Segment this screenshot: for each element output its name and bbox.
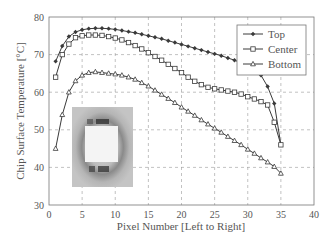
triangle-marker-icon (166, 96, 171, 100)
diamond-marker-icon (272, 101, 276, 105)
legend-label: Top (268, 28, 285, 40)
triangle-marker-icon (206, 122, 211, 126)
square-marker-icon (80, 34, 84, 38)
y-tick-label: 40 (34, 162, 44, 173)
triangle-marker-icon (179, 105, 184, 109)
square-marker-icon (279, 143, 283, 147)
diamond-marker-icon (199, 48, 203, 52)
square-marker-icon (219, 88, 223, 92)
triangle-marker-icon (259, 155, 264, 159)
square-marker-icon (133, 43, 137, 47)
square-marker-icon (93, 33, 97, 37)
y-axis-label: Chip Surface Temperature [°C] (14, 42, 26, 180)
diamond-marker-icon (173, 40, 177, 44)
square-marker-icon (159, 58, 163, 62)
square-marker-icon (199, 82, 203, 86)
y-tick-label: 80 (34, 12, 44, 23)
square-marker-icon (252, 97, 256, 101)
diamond-marker-icon (120, 28, 124, 32)
diamond-marker-icon (113, 27, 117, 31)
triangle-marker-icon (232, 138, 237, 142)
square-marker-icon (226, 89, 230, 93)
y-tick-label: 30 (34, 200, 44, 211)
square-marker-icon (87, 33, 91, 37)
triangle-marker-icon (199, 117, 204, 121)
inset-thermal-image (72, 107, 133, 187)
legend-label: Center (268, 43, 298, 55)
square-marker-icon (120, 38, 124, 42)
x-tick-label: 25 (210, 209, 220, 220)
square-marker-icon (173, 66, 177, 70)
x-tick-label: 15 (143, 209, 153, 220)
square-marker-icon (113, 36, 117, 40)
square-marker-icon (259, 99, 263, 103)
square-marker-icon (206, 85, 210, 89)
y-tick-label: 70 (34, 49, 44, 60)
square-marker-icon (146, 51, 150, 55)
diamond-marker-icon (106, 26, 110, 30)
square-marker-icon (186, 75, 190, 79)
triangle-marker-icon (192, 113, 197, 117)
diamond-marker-icon (166, 38, 170, 42)
diamond-marker-icon (126, 29, 130, 33)
diamond-marker-icon (93, 26, 97, 30)
temperature-chart: 0510152025303540304050607080 Pixel Numbe… (0, 0, 335, 245)
x-tick-label: 10 (110, 209, 120, 220)
square-marker-icon (251, 47, 255, 51)
square-marker-icon (126, 40, 130, 44)
x-tick-label: 40 (309, 209, 319, 220)
triangle-marker-icon (219, 130, 224, 134)
diamond-marker-icon (140, 32, 144, 36)
square-marker-icon (100, 33, 104, 37)
triangle-marker-icon (252, 151, 257, 155)
triangle-marker-icon (60, 112, 65, 116)
diamond-marker-icon (53, 59, 57, 63)
diamond-marker-icon (179, 42, 183, 46)
y-tick-label: 50 (34, 124, 44, 135)
square-marker-icon (272, 120, 276, 124)
legend-label: Bottom (268, 58, 301, 70)
triangle-marker-icon (272, 164, 277, 168)
triangle-marker-icon (172, 100, 177, 104)
square-marker-icon (265, 103, 269, 107)
diamond-marker-icon (206, 50, 210, 54)
diamond-marker-icon (133, 31, 137, 35)
square-marker-icon (140, 47, 144, 51)
square-marker-icon (166, 62, 170, 66)
diamond-marker-icon (212, 52, 216, 56)
diamond-marker-icon (219, 54, 223, 58)
square-marker-icon (153, 54, 157, 58)
x-tick-label: 30 (243, 209, 253, 220)
triangle-marker-icon (159, 92, 164, 96)
x-tick-label: 35 (276, 209, 286, 220)
triangle-marker-icon (245, 147, 250, 151)
diamond-marker-icon (146, 34, 150, 38)
diamond-marker-icon (193, 46, 197, 50)
diamond-marker-icon (159, 37, 163, 41)
triangle-marker-icon (53, 146, 58, 150)
square-marker-icon (73, 35, 77, 39)
diamond-marker-icon (232, 58, 236, 62)
x-tick-label: 0 (47, 209, 52, 220)
diamond-marker-icon (100, 26, 104, 30)
triangle-marker-icon (153, 88, 158, 92)
diamond-marker-icon (87, 26, 91, 30)
x-tick-label: 5 (80, 209, 85, 220)
square-marker-icon (67, 42, 71, 46)
square-marker-icon (179, 70, 183, 74)
diamond-marker-icon (265, 84, 269, 88)
y-tick-label: 60 (34, 87, 44, 98)
square-marker-icon (232, 90, 236, 94)
triangle-marker-icon (239, 142, 244, 146)
square-marker-icon (106, 34, 110, 38)
square-marker-icon (246, 95, 250, 99)
diamond-marker-icon (80, 28, 84, 32)
x-axis-label: Pixel Number [Left to Right] (117, 220, 245, 232)
diamond-marker-icon (226, 56, 230, 60)
diamond-marker-icon (186, 44, 190, 48)
triangle-marker-icon (212, 126, 217, 130)
square-marker-icon (53, 75, 57, 79)
legend: TopCenterBottom (237, 25, 306, 75)
square-marker-icon (60, 52, 64, 56)
square-marker-icon (212, 87, 216, 91)
